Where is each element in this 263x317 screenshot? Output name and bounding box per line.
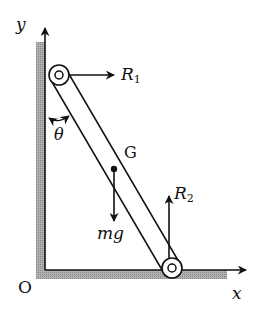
x-axis-label: x bbox=[232, 285, 242, 302]
force-r1-symbol: R bbox=[121, 64, 134, 84]
y-axis-label: y bbox=[16, 16, 26, 33]
floor-hatch bbox=[36, 270, 227, 279]
force-r2-subscript: 2 bbox=[187, 192, 194, 205]
force-r1-subscript: 1 bbox=[134, 73, 141, 86]
angle-arc-theta bbox=[49, 116, 69, 121]
wall-hatch bbox=[36, 42, 45, 279]
force-label-r1: R1 bbox=[121, 66, 141, 85]
bottom-pin-joint bbox=[162, 258, 182, 278]
ladder-rod bbox=[52, 69, 179, 275]
top-pin-joint bbox=[49, 65, 69, 85]
force-label-r2: R2 bbox=[174, 185, 194, 204]
force-r2-symbol: R bbox=[174, 183, 187, 203]
center-of-mass-label: G bbox=[124, 145, 137, 161]
angle-label-theta: θ bbox=[54, 127, 64, 143]
origin-label: O bbox=[18, 279, 32, 296]
force-label-mg: mg bbox=[97, 225, 124, 242]
